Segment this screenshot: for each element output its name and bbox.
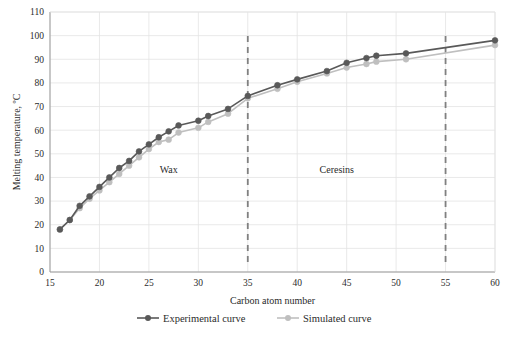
y-tick-label: 100 [30,31,45,41]
y-tick-label: 10 [35,244,45,254]
data-point [373,53,379,59]
data-point [166,137,172,143]
y-tick-label: 90 [35,55,45,65]
chart-svg: 0102030405060708090100110152025303540455… [0,0,518,342]
y-tick-label: 20 [35,220,45,230]
x-tick-label: 35 [243,278,253,288]
data-point [176,130,182,136]
data-point [116,171,122,177]
data-point [116,165,122,171]
region-label: Ceresins [320,164,355,175]
data-point [364,55,370,61]
data-point [87,193,93,199]
data-point [403,56,409,62]
data-point [324,68,330,74]
legend-label-1: Simulated curve [303,313,372,324]
y-axis-title: Melting temperature, ºC [11,93,22,190]
data-point [364,61,370,67]
data-point [225,106,231,112]
x-tick-label: 55 [441,278,451,288]
data-point [106,175,112,181]
y-tick-label: 110 [30,7,44,17]
data-point [245,93,251,99]
x-tick-label: 25 [144,278,154,288]
data-point [77,203,83,209]
data-point [166,128,172,134]
x-tick-label: 15 [45,278,55,288]
x-tick-label: 60 [490,278,500,288]
data-point [344,60,350,66]
data-point [275,82,281,88]
data-point [403,50,409,56]
legend-marker-1 [285,315,291,321]
y-tick-label: 0 [39,267,44,277]
data-point [136,154,142,160]
data-point [156,134,162,140]
chart-background [0,0,518,342]
x-axis-title: Carbon atom number [230,295,316,306]
x-tick-label: 40 [292,278,302,288]
y-tick-label: 80 [35,78,45,88]
data-point [136,149,142,155]
x-tick-label: 30 [194,278,204,288]
region-label: Wax [160,164,178,175]
x-tick-label: 50 [391,278,401,288]
y-tick-label: 60 [35,126,45,136]
y-tick-label: 40 [35,173,45,183]
data-point [492,37,498,43]
chart-figure: 0102030405060708090100110152025303540455… [0,0,518,342]
y-tick-label: 70 [35,102,45,112]
data-point [205,113,211,119]
legend-label-0: Experimental curve [163,313,246,324]
data-point [205,119,211,125]
data-point [176,123,182,129]
data-point [146,141,152,147]
data-point [195,118,201,124]
y-tick-label: 50 [35,149,45,159]
data-point [67,217,73,223]
data-point [126,158,132,164]
y-tick-label: 30 [35,196,45,206]
data-point [57,227,63,233]
x-tick-label: 45 [342,278,352,288]
data-point [373,59,379,65]
data-point [97,184,103,190]
data-point [294,76,300,82]
x-tick-label: 20 [95,278,105,288]
legend-marker-0 [145,315,151,321]
data-point [195,125,201,131]
